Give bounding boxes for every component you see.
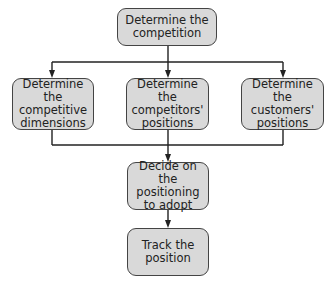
node-competitors-positions: Determine the competitors' positions bbox=[126, 78, 209, 130]
node-competitive-dimensions: Determine the competitive dimensions bbox=[12, 78, 94, 130]
node-label: Determine the competitive dimensions bbox=[16, 78, 90, 130]
node-label: Track the position bbox=[131, 239, 205, 265]
node-decide-positioning: Decide on the positioning to adopt bbox=[127, 162, 209, 210]
node-track-position: Track the position bbox=[127, 228, 209, 276]
node-label: Determine the competition bbox=[121, 14, 213, 40]
node-customers-positions: Determine the customers' positions bbox=[241, 78, 324, 130]
node-determine-competition: Determine the competition bbox=[117, 8, 217, 46]
node-label: Decide on the positioning to adopt bbox=[131, 160, 205, 212]
arrow-icon bbox=[165, 220, 171, 228]
node-label: Determine the customers' positions bbox=[245, 78, 320, 130]
node-label: Determine the competitors' positions bbox=[130, 78, 205, 130]
